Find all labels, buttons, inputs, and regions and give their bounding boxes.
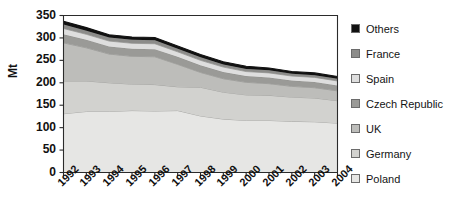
y-tick-label-200: 200 bbox=[36, 75, 56, 89]
legend-item-uk[interactable]: UK bbox=[351, 116, 465, 141]
chart-legend: OthersFranceSpainCzech RepublicUKGermany… bbox=[351, 16, 465, 191]
y-tick-label-0: 0 bbox=[49, 165, 56, 179]
legend-item-label: UK bbox=[366, 123, 381, 135]
legend-swatch-icon bbox=[351, 74, 360, 83]
legend-item-label: Poland bbox=[366, 173, 400, 185]
y-tick-label-150: 150 bbox=[36, 97, 56, 111]
stacked-area-chart: Mt 350300250200150100500 199219931994199… bbox=[0, 0, 465, 217]
y-tick-label-250: 250 bbox=[36, 52, 56, 66]
legend-item-spain[interactable]: Spain bbox=[351, 66, 465, 91]
legend-swatch-icon bbox=[351, 149, 360, 158]
legend-item-germany[interactable]: Germany bbox=[351, 141, 465, 166]
legend-item-czech-republic[interactable]: Czech Republic bbox=[351, 91, 465, 116]
y-tick-label-350: 350 bbox=[36, 8, 56, 22]
legend-item-others[interactable]: Others bbox=[351, 16, 465, 41]
legend-item-label: Germany bbox=[366, 148, 411, 160]
y-tick-label-50: 50 bbox=[43, 142, 56, 156]
legend-item-label: Others bbox=[366, 23, 399, 35]
legend-item-label: Spain bbox=[366, 73, 394, 85]
legend-swatch-icon bbox=[351, 49, 360, 58]
legend-swatch-icon bbox=[351, 99, 360, 108]
legend-swatch-icon bbox=[351, 124, 360, 133]
legend-item-label: Czech Republic bbox=[366, 98, 443, 110]
legend-item-label: France bbox=[366, 48, 400, 60]
legend-swatch-icon bbox=[351, 24, 360, 33]
y-axis-tick-labels: 350300250200150100500 bbox=[12, 0, 56, 217]
legend-item-poland[interactable]: Poland bbox=[351, 166, 465, 191]
y-tick-label-100: 100 bbox=[36, 120, 56, 134]
legend-item-france[interactable]: France bbox=[351, 41, 465, 66]
legend-swatch-icon bbox=[351, 174, 360, 183]
y-tick-label-300: 300 bbox=[36, 30, 56, 44]
